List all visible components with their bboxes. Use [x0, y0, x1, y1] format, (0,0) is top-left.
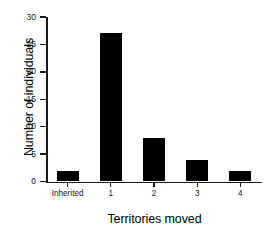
bar-chart-figure: Number of individuals Territories moved … — [0, 0, 269, 233]
y-tick-label: 30 — [0, 13, 36, 22]
y-axis-line — [46, 17, 48, 183]
bar — [57, 171, 79, 182]
y-tick-mark — [40, 71, 46, 72]
x-axis-title: Territories moved — [46, 212, 263, 226]
x-tick-mark — [197, 182, 198, 187]
y-tick-label: 20 — [0, 67, 36, 76]
y-tick-label: 15 — [0, 95, 36, 104]
y-tick-label: 25 — [0, 40, 36, 49]
y-tick-mark — [40, 153, 46, 154]
y-tick-label: 5 — [0, 150, 36, 159]
y-tick-mark — [40, 126, 46, 127]
bar — [143, 138, 165, 182]
x-tick-mark — [110, 182, 111, 187]
x-tick-label: 4 — [210, 189, 269, 198]
y-tick-mark — [40, 99, 46, 100]
bar — [100, 33, 122, 181]
y-tick-label: 0 — [0, 177, 36, 186]
x-tick-mark — [153, 182, 154, 187]
bar — [229, 171, 251, 182]
y-tick-mark — [40, 16, 46, 17]
bar — [186, 160, 208, 182]
y-tick-label: 10 — [0, 122, 36, 131]
y-tick-mark — [40, 181, 46, 182]
x-tick-mark — [67, 182, 68, 187]
y-tick-mark — [40, 44, 46, 45]
x-tick-mark — [240, 182, 241, 187]
